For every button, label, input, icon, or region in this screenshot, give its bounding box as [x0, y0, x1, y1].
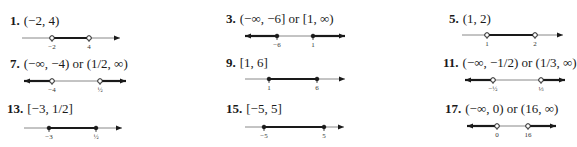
open-endpoint — [495, 124, 500, 129]
tick-label: 0 — [495, 131, 499, 139]
arrow-left-icon — [467, 124, 473, 129]
tick-label: 16 — [525, 131, 533, 139]
arrow-right-icon — [550, 124, 556, 129]
open-endpoint — [526, 124, 531, 129]
